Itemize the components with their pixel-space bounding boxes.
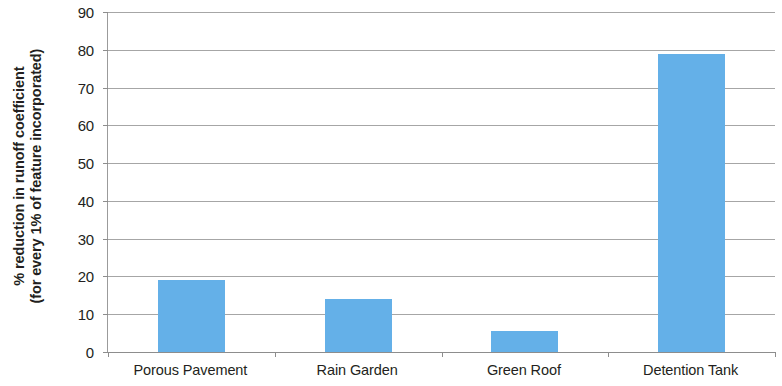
y-axis-title-line2: (for every 1% of feature incorporated) xyxy=(28,49,45,304)
y-axis-tick-label: 90 xyxy=(78,4,94,21)
x-axis-category-label: Green Roof xyxy=(441,362,608,378)
bar xyxy=(325,299,392,352)
bar-chart: (for every 1% of feature incorporated) %… xyxy=(0,0,782,386)
y-axis-title-line1: % reduction in runoff coefficient xyxy=(11,66,28,285)
bar xyxy=(158,280,225,352)
y-axis-tick-labels: 0102030405060708090 xyxy=(56,0,102,365)
y-axis-tick-label: 50 xyxy=(78,155,94,172)
bar xyxy=(658,54,725,352)
y-axis-tick-label: 20 xyxy=(78,268,94,285)
y-axis-tick-label: 0 xyxy=(86,344,94,361)
bar-series xyxy=(108,12,775,352)
y-axis-tick-label: 80 xyxy=(78,41,94,58)
y-axis-tick-label: 60 xyxy=(78,117,94,134)
bar xyxy=(491,331,558,352)
y-axis-tick-label: 40 xyxy=(78,192,94,209)
y-axis-title: (for every 1% of feature incorporated) %… xyxy=(0,0,56,352)
y-axis-tick-label: 30 xyxy=(78,230,94,247)
x-axis-tick xyxy=(775,352,776,357)
y-axis-tick-label: 10 xyxy=(78,306,94,323)
y-axis-tick-label: 70 xyxy=(78,79,94,96)
x-axis-category-labels: Porous PavementRain GardenGreen RoofDete… xyxy=(107,356,774,386)
x-axis-category-label: Detention Tank xyxy=(607,362,774,378)
x-axis-category-label: Rain Garden xyxy=(274,362,441,378)
plot-area xyxy=(107,12,775,352)
x-axis-category-label: Porous Pavement xyxy=(107,362,274,378)
